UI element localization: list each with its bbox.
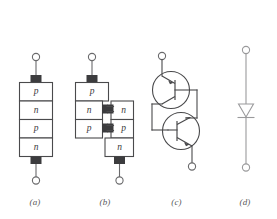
interconnect-pad-2-right bbox=[108, 124, 114, 133]
pnp-emitter-lead bbox=[162, 76, 175, 84]
panel-b-drawing: p n p n p n bbox=[70, 0, 140, 200]
panel-a: p n p n (a) bbox=[0, 0, 70, 219]
caption-c: (c) bbox=[140, 197, 213, 207]
four-layer-structure-svg: p n p n bbox=[0, 0, 70, 200]
two-transistor-equivalent-svg bbox=[140, 0, 213, 200]
symbol-terminal-top-circle bbox=[242, 46, 249, 53]
panel-d-drawing bbox=[213, 0, 277, 200]
split-two-transistor-svg: p n p n p n bbox=[70, 0, 140, 200]
right-layer-label-3: n bbox=[117, 142, 122, 152]
caption-d: (d) bbox=[213, 197, 277, 207]
layer-label-2: n bbox=[34, 105, 39, 115]
symbol-terminal-bottom-circle bbox=[242, 164, 249, 171]
npn-collector-lead bbox=[177, 118, 190, 125]
left-layer-label-1: p bbox=[89, 86, 95, 96]
layer-label-1: p bbox=[33, 86, 39, 96]
panel-b: p n p n p n bbox=[70, 0, 140, 219]
panel-d: (d) bbox=[213, 0, 277, 219]
terminal-top-circle bbox=[88, 53, 95, 60]
caption-a: (a) bbox=[0, 197, 70, 207]
terminal-cathode-circle bbox=[188, 163, 195, 170]
panel-c-drawing bbox=[140, 0, 213, 200]
right-layer-label-2: p bbox=[120, 123, 126, 133]
terminal-top-circle bbox=[32, 53, 39, 60]
npn-emitter-lead bbox=[177, 138, 192, 147]
caption-b: (b) bbox=[70, 197, 140, 207]
npn-collector-wire bbox=[186, 118, 190, 119]
pnp-collector-lead bbox=[162, 97, 175, 105]
left-layer-label-2: n bbox=[87, 105, 92, 115]
figure-thyristor-representations: p n p n (a) bbox=[0, 0, 277, 219]
contact-pad-top bbox=[87, 75, 98, 83]
contact-pad-bottom bbox=[31, 157, 42, 165]
terminal-bottom-circle bbox=[116, 177, 123, 184]
right-layer-label-1: n bbox=[121, 105, 126, 115]
contact-pad-bottom bbox=[114, 157, 125, 165]
terminal-bottom-circle bbox=[32, 177, 39, 184]
contact-pad-top bbox=[31, 75, 42, 83]
left-layer-label-3: p bbox=[86, 123, 92, 133]
panel-c: (c) bbox=[140, 0, 213, 219]
thyristor-symbol-svg bbox=[213, 0, 277, 200]
layer-label-4: n bbox=[34, 142, 39, 152]
interconnect-pad-1-right bbox=[108, 105, 114, 114]
symbol-diode-triangle bbox=[239, 104, 254, 117]
npn-transistor-envelope bbox=[163, 113, 200, 150]
layer-label-3: p bbox=[33, 123, 39, 133]
interconnect-pad-2-left bbox=[102, 124, 108, 133]
panel-a-drawing: p n p n bbox=[0, 0, 70, 200]
terminal-anode-circle bbox=[158, 52, 165, 59]
interconnect-pad-1-left bbox=[102, 105, 108, 114]
